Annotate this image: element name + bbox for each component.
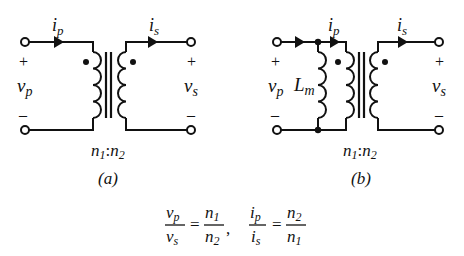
polarity-minus-vs-b: – (434, 106, 444, 123)
polarity-dot-secondary (130, 59, 136, 65)
junction-node-bottom (315, 127, 321, 133)
eq1-rhs-denominator: n2 (205, 227, 220, 248)
secondary-winding-icon (118, 52, 126, 118)
terminal-secondary-minus (187, 126, 195, 134)
terminal-primary-plus (273, 38, 281, 46)
junction-node-top (315, 39, 321, 45)
terminal-secondary-minus (435, 126, 443, 134)
equation-voltage-ratio: vp vs = n1 n2 , (165, 203, 230, 248)
label-vs-b: vs (432, 75, 446, 99)
eq2-lhs-denominator: is (251, 227, 261, 248)
eq1-lhs-denominator: vs (166, 227, 179, 248)
caption-a: (a) (98, 169, 118, 188)
polarity-minus-vs-a: – (186, 106, 196, 123)
secondary-top-wire (126, 42, 187, 52)
eq1-lhs-numerator: vp (166, 203, 180, 224)
polarity-dot-secondary (382, 59, 388, 65)
terminal-secondary-plus (187, 38, 195, 46)
eq1-comma: , (226, 219, 230, 238)
label-is-a: is (149, 15, 159, 38)
secondary-winding-icon (370, 52, 378, 118)
polarity-plus-vs-b: + (435, 53, 444, 70)
polarity-dot-primary (83, 59, 89, 65)
equation-current-ratio: ip is = n2 n1 (249, 203, 306, 248)
polarity-dot-primary (335, 59, 341, 65)
eq2-rhs-denominator: n1 (287, 227, 302, 248)
transformer-diagram: ip is + vp – + vs – n1:n2 (a) ip (0, 0, 464, 256)
terminal-primary-plus (21, 38, 29, 46)
terminal-primary-minus (273, 126, 281, 134)
turns-ratio-a: n1:n2 (91, 141, 125, 162)
eq1-rhs-numerator: n1 (205, 203, 220, 224)
polarity-plus-vp-b: + (271, 53, 280, 70)
turns-ratio-b: n1:n2 (343, 141, 377, 162)
input-current-arrow-icon (295, 36, 305, 48)
caption-b: (b) (351, 169, 371, 188)
eq2-rhs-numerator: n2 (287, 203, 302, 224)
secondary-bottom-wire (126, 118, 187, 130)
primary-winding-icon (93, 52, 101, 118)
primary-winding-icon (346, 52, 354, 118)
input-bottom-wire (281, 118, 346, 130)
magnetizing-inductor-icon (318, 52, 326, 118)
label-vp-a: vp (17, 75, 32, 99)
figure-a-ideal-transformer (21, 38, 195, 134)
eq1-equals: = (190, 215, 200, 234)
terminal-primary-minus (21, 126, 29, 134)
terminal-secondary-plus (435, 38, 443, 46)
label-vs-a: vs (184, 75, 198, 99)
eq2-equals: = (272, 215, 282, 234)
label-is-b: is (397, 15, 407, 38)
eq2-lhs-numerator: ip (250, 203, 261, 224)
primary-bottom-wire (29, 118, 93, 130)
label-ip-a: ip (52, 15, 64, 38)
polarity-plus-vp-a: + (19, 53, 28, 70)
polarity-plus-vs-a: + (187, 53, 196, 70)
label-vp-b: vp (268, 75, 283, 99)
secondary-top-wire (378, 42, 435, 52)
secondary-bottom-wire (378, 118, 435, 130)
polarity-minus-vp-b: – (270, 106, 280, 123)
label-lm: Lm (293, 74, 315, 98)
polarity-minus-vp-a: – (18, 106, 28, 123)
label-ip-b: ip (328, 15, 340, 38)
